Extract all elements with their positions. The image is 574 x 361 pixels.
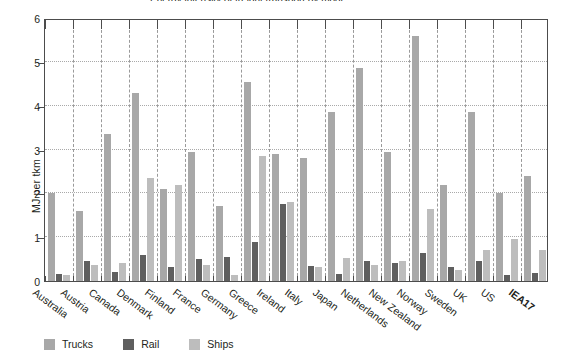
tick-bottom (73, 276, 74, 281)
chart-legend: TrucksRailShips (44, 334, 344, 354)
y-tick-label: 4 (14, 101, 40, 113)
tick-bottom (241, 276, 242, 281)
gridline-vertical (437, 20, 438, 281)
tick-top (157, 20, 158, 29)
gridline-vertical (381, 20, 382, 281)
gridline-vertical (101, 20, 102, 281)
tick-top (45, 20, 46, 29)
bar-trucks (384, 152, 391, 281)
tick-bottom (325, 276, 326, 281)
bar-trucks (104, 134, 111, 281)
gridline-vertical (353, 20, 354, 281)
bar-rail (224, 257, 231, 281)
x-tick-label: IEA17 (507, 286, 538, 313)
bar-trucks (244, 82, 251, 281)
bar-ships (539, 250, 546, 281)
bar-ships (343, 258, 350, 281)
bar-trucks (48, 193, 55, 281)
bar-rail (336, 274, 343, 281)
tick-bottom (101, 276, 102, 281)
tick-bottom (129, 276, 130, 281)
tick-bottom (409, 276, 410, 281)
plot-area (44, 19, 548, 282)
tick-top (73, 20, 74, 29)
bar-rail (280, 204, 287, 281)
x-tick-label: Ireland (255, 286, 288, 315)
x-tick-label: UK (451, 286, 470, 304)
bar-trucks (328, 112, 335, 281)
tick-bottom (465, 276, 466, 281)
bar-ships (287, 202, 294, 281)
legend-label: Rail (141, 338, 159, 350)
bar-ships (231, 275, 238, 281)
tick-bottom (45, 276, 46, 281)
bar-rail (476, 261, 483, 281)
bar-rail (140, 255, 147, 281)
gridline-horizontal (45, 61, 547, 62)
gridline-vertical (409, 20, 410, 281)
tick-top (437, 20, 438, 29)
tick-top (381, 20, 382, 29)
bar-rail (532, 273, 539, 281)
tick-bottom (157, 276, 158, 281)
bar-trucks (216, 206, 223, 281)
tick-bottom (353, 276, 354, 281)
bar-trucks (496, 193, 503, 281)
bar-ships (147, 178, 154, 281)
gridline-vertical (269, 20, 270, 281)
tick-bottom (213, 276, 214, 281)
bar-trucks (468, 112, 475, 281)
tick-top (325, 20, 326, 29)
tick-top (213, 20, 214, 29)
gridline-horizontal (45, 105, 547, 106)
tick-top (129, 20, 130, 29)
y-tick-label: 3 (14, 145, 40, 157)
bar-trucks (440, 185, 447, 281)
bar-trucks (76, 211, 83, 281)
bar-ships (91, 265, 98, 281)
tick-top (353, 20, 354, 29)
bar-rail (308, 266, 315, 281)
y-tick-label: 0 (14, 276, 40, 288)
gridline-vertical (213, 20, 214, 281)
bar-trucks (356, 68, 363, 281)
legend-label: Trucks (62, 338, 93, 350)
bar-rail (196, 259, 203, 281)
bar-trucks (132, 93, 139, 281)
bar-ships (175, 185, 182, 281)
tick-top (297, 20, 298, 29)
bar-ships (455, 270, 462, 281)
x-tick-label: France (171, 286, 204, 315)
bar-rail (448, 267, 455, 281)
tick-top (269, 20, 270, 29)
tick-top (521, 20, 522, 29)
gridline-vertical (297, 20, 298, 281)
bar-rail (168, 267, 175, 281)
plot-inner (45, 20, 547, 281)
bar-rail (84, 261, 91, 281)
gridline-vertical (521, 20, 522, 281)
y-tick-label: 6 (14, 13, 40, 25)
bar-ships (315, 267, 322, 281)
bar-trucks (160, 189, 167, 281)
bar-ships (119, 263, 126, 281)
tick-bottom (493, 276, 494, 281)
bar-ships (63, 275, 70, 281)
legend-swatch-icon (123, 339, 134, 350)
bar-ships (427, 209, 434, 281)
legend-item: Rail (123, 338, 159, 350)
bar-rail (252, 242, 259, 281)
bar-ships (259, 156, 266, 281)
legend-item: Ships (189, 338, 233, 350)
bar-trucks (188, 152, 195, 281)
bar-rail (504, 275, 511, 281)
tick-top (101, 20, 102, 29)
x-tick-label: Japan (311, 286, 341, 313)
tick-bottom (437, 276, 438, 281)
bar-ships (483, 250, 490, 281)
bar-ships (371, 265, 378, 281)
bar-rail (392, 263, 399, 281)
gridline-vertical (73, 20, 74, 281)
bar-rail (364, 261, 371, 281)
gridline-vertical (325, 20, 326, 281)
